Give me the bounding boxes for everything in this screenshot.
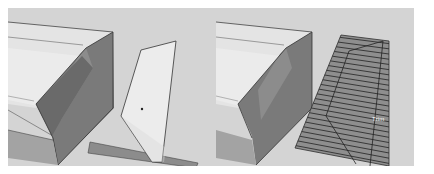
model-scene-right[interactable] — [216, 8, 414, 166]
cursor-tooltip: Trim — [372, 116, 385, 122]
model-scene-left[interactable] — [8, 8, 216, 166]
viewport-left[interactable] — [8, 8, 216, 166]
viewport-right[interactable]: Trim — [216, 8, 414, 166]
